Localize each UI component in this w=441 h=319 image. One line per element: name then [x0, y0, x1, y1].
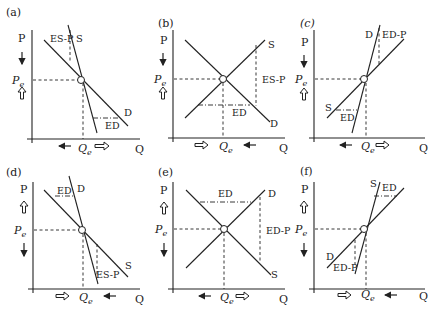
curve-label-d: D: [326, 251, 334, 262]
y-axis-label: P: [160, 184, 168, 197]
hollow-arrow-right-icon: [95, 142, 109, 150]
gap-label-ed: ED: [105, 120, 120, 131]
x-axis-label: Q: [279, 293, 288, 306]
equilibrium-point: [221, 226, 228, 233]
qe-label: Qe: [361, 140, 375, 155]
gap-label-es-p: ES-P: [262, 74, 286, 85]
panel-label: (a): [6, 6, 21, 19]
gap-label-es-p: ES-P: [96, 269, 120, 280]
qe-label: Qe: [361, 288, 375, 303]
curve-label-d: D: [268, 188, 276, 199]
gap-label-ed: ED: [340, 112, 355, 123]
panel-label: (f): [300, 165, 313, 178]
equilibrium-point: [220, 76, 227, 83]
demand-curve: [44, 40, 128, 126]
gap-label-ed: ED: [232, 107, 247, 118]
panel-f: (f) P Q Pe Qe S D ED ED-P: [294, 165, 428, 303]
panel-d: (d) P Q Pe Qe D S ED ES-P: [6, 166, 144, 306]
pe-label: Pe: [153, 73, 166, 88]
panel-a: (a) P Q Pe Qe S D ES-P ED: [6, 6, 144, 157]
y-axis-label: P: [160, 34, 168, 47]
hollow-arrow-right-icon: [236, 292, 249, 300]
hollow-arrow-up-icon: [300, 88, 308, 100]
curve-label-d: D: [77, 183, 85, 194]
pe-label: Pe: [294, 73, 307, 88]
curve-label-s: S: [271, 269, 278, 280]
qe-label: Qe: [220, 291, 234, 306]
qe-label: Qe: [78, 142, 92, 157]
x-axis-label: Q: [135, 293, 144, 306]
curve-label-d: D: [124, 107, 132, 118]
panel-label: (c): [300, 17, 315, 30]
hollow-arrow-right-icon: [56, 292, 69, 300]
equilibrium-point: [78, 77, 85, 84]
x-axis-label: Q: [419, 290, 428, 303]
gap-label-ed-p: ED-P: [266, 225, 291, 236]
supply-demand-diagram-grid: (a) P Q Pe Qe S D ES-P ED (b) P Q: [0, 0, 441, 319]
hollow-arrow-right-icon: [195, 141, 208, 149]
demand-curve: [185, 40, 270, 122]
hollow-arrow-up-icon: [300, 201, 308, 213]
curve-label-s: S: [370, 178, 377, 189]
gap-label-ed-p: ED-P: [333, 262, 358, 273]
qe-label: Qe: [79, 291, 93, 306]
curve-label-d: D: [270, 118, 278, 129]
pe-label: Pe: [13, 224, 26, 239]
curve-label-s: S: [268, 39, 275, 50]
curve-label-s: S: [76, 33, 83, 44]
gap-label-ed-p: ED-P: [382, 29, 407, 40]
x-axis-label: Q: [135, 143, 144, 156]
supply-curve: [186, 190, 271, 275]
x-axis-label: Q: [279, 142, 288, 155]
pe-label: Pe: [11, 74, 24, 89]
panel-label: (d): [6, 166, 22, 179]
gap-label-ed: ED: [57, 185, 72, 196]
curve-label-d: D: [365, 29, 373, 40]
equilibrium-point: [79, 227, 86, 234]
panel-e: (e) P Q Pe Qe D S ED ED-P: [154, 166, 291, 306]
y-axis-label: P: [18, 32, 26, 45]
equilibrium-point: [361, 76, 368, 83]
pe-label: Pe: [154, 223, 167, 238]
hollow-arrow-right-icon: [338, 291, 351, 299]
pe-label: Pe: [294, 223, 307, 238]
curve-label-s: S: [325, 102, 332, 113]
gap-label-ed: ED: [218, 188, 233, 199]
hollow-arrow-right-icon: [376, 141, 389, 149]
y-axis-label: P: [301, 36, 309, 49]
y-axis-label: P: [20, 183, 28, 196]
hollow-arrow-up-icon: [20, 201, 28, 213]
supply-curve: [44, 190, 128, 277]
gap-label-ed: ED: [382, 182, 397, 193]
gap-label-es-p: ES-P: [50, 33, 74, 44]
panel-label: (e): [158, 166, 173, 179]
x-axis-label: Q: [419, 142, 428, 155]
hollow-arrow-up-icon: [159, 87, 167, 99]
hollow-arrow-up-icon: [160, 202, 168, 214]
qe-label: Qe: [219, 140, 233, 155]
panel-c: (c) P Q Pe Qe D S ED-P ED: [294, 17, 428, 155]
panel-label: (b): [158, 17, 174, 30]
equilibrium-point: [361, 226, 368, 233]
y-axis-label: P: [301, 183, 309, 196]
curve-label-s: S: [125, 260, 132, 271]
panel-b: (b) P Q Pe Qe S D ES-P ED: [153, 17, 288, 155]
